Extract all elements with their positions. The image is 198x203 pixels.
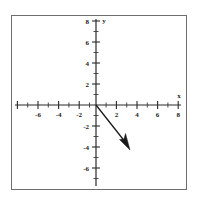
y-tick-label: 4 — [86, 60, 90, 68]
x-tick-label: -4 — [56, 111, 62, 119]
x-tick-labels: -6 -4 -2 2 4 6 8 — [35, 111, 180, 119]
vector-shaft — [96, 105, 126, 143]
y-tick-label: 2 — [86, 81, 90, 89]
x-tick-label: 4 — [135, 111, 139, 119]
coordinate-plane-svg: -6 -4 -2 2 4 6 8 8 6 4 2 -2 -4 -6 x y — [0, 0, 198, 203]
y-tick-label: -4 — [83, 144, 89, 152]
x-tick-label: 6 — [156, 111, 160, 119]
y-tick-label: -2 — [83, 123, 89, 131]
y-tick-label: -6 — [83, 165, 89, 173]
x-tick-label: 2 — [115, 111, 119, 119]
y-tick-label: 6 — [86, 39, 90, 47]
y-tick-labels: 8 6 4 2 -2 -4 -6 — [83, 18, 89, 173]
vector-arrow — [96, 105, 130, 150]
axis-lines — [15, 19, 181, 186]
x-axis-label: x — [177, 92, 181, 100]
x-tick-label: -6 — [35, 111, 41, 119]
y-axis-label: y — [102, 17, 106, 25]
y-tick-label: 8 — [86, 18, 90, 26]
x-tick-label: -2 — [76, 111, 82, 119]
x-tick-label: 8 — [176, 111, 180, 119]
graph-figure: -6 -4 -2 2 4 6 8 8 6 4 2 -2 -4 -6 x y — [0, 0, 198, 203]
